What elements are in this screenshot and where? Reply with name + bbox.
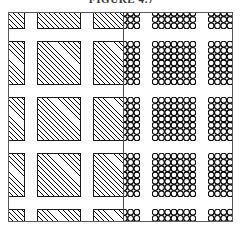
circle-cluster [123, 97, 140, 141]
hatch-fill [9, 13, 25, 29]
hatched-square [9, 209, 25, 222]
hatched-square [37, 153, 81, 197]
hatched-square [93, 153, 123, 197]
circle-cluster [152, 41, 196, 85]
atom-cluster [123, 97, 140, 141]
hatched-square [9, 13, 25, 29]
hatch-fill [93, 97, 123, 141]
hatch-fill [37, 153, 81, 197]
atom-cluster [152, 209, 196, 222]
hatched-square [9, 41, 25, 85]
circle-cluster [123, 13, 140, 29]
hatch-fill [37, 41, 81, 85]
circle-cluster [208, 41, 233, 85]
left-panel-hatched-squares [9, 13, 123, 222]
figure-frame [8, 12, 233, 222]
atom-cluster [123, 41, 140, 85]
hatched-square [9, 153, 25, 197]
hatch-fill [93, 13, 123, 29]
figure-caption-strip: FIGURE 4.7 [0, 0, 243, 11]
hatched-square [93, 209, 123, 222]
circle-cluster [208, 13, 233, 29]
circle-cluster [208, 153, 233, 197]
hatch-fill [9, 209, 25, 222]
circle-cluster [152, 13, 196, 29]
hatched-lattice [9, 13, 123, 222]
atom-cluster [208, 209, 233, 222]
hatched-square [9, 97, 25, 141]
atom-cluster [123, 153, 140, 197]
hatched-square [37, 41, 81, 85]
hatch-fill [93, 153, 123, 197]
circle-cluster [123, 153, 140, 197]
circle-cluster [152, 209, 196, 222]
right-panel-circle-clusters [123, 13, 233, 222]
atom-cluster [152, 153, 196, 197]
atom-cluster [123, 209, 140, 222]
circle-cluster [208, 97, 233, 141]
hatched-square [93, 97, 123, 141]
circle-lattice [123, 13, 233, 222]
hatch-fill [37, 97, 81, 141]
atom-cluster [208, 41, 233, 85]
atom-cluster [152, 13, 196, 29]
hatched-square [37, 209, 81, 222]
atom-cluster [123, 13, 140, 29]
hatched-square [93, 41, 123, 85]
hatch-fill [9, 41, 25, 85]
hatch-fill [37, 13, 81, 29]
atom-cluster [208, 13, 233, 29]
atom-cluster [208, 97, 233, 141]
circle-cluster [152, 97, 196, 141]
atom-cluster [152, 41, 196, 85]
circle-cluster [123, 209, 140, 222]
circle-cluster [208, 209, 233, 222]
hatched-square [37, 97, 81, 141]
hatch-fill [9, 97, 25, 141]
atom-cluster [152, 97, 196, 141]
hatched-square [93, 13, 123, 29]
circle-cluster [152, 153, 196, 197]
hatch-fill [93, 41, 123, 85]
hatched-square [37, 13, 81, 29]
figure-caption: FIGURE 4.7 [0, 0, 243, 5]
hatch-fill [37, 209, 81, 222]
atom-cluster [208, 153, 233, 197]
hatch-fill [93, 209, 123, 222]
hatch-fill [9, 153, 25, 197]
circle-cluster [123, 41, 140, 85]
